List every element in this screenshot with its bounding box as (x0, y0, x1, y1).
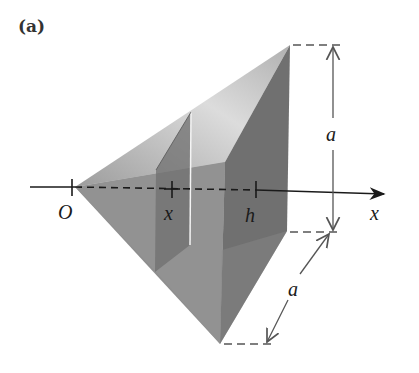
height-label: h (245, 204, 255, 226)
lower-front-face (75, 162, 225, 344)
panel-label: (a) (18, 16, 45, 36)
diagonal-a-label: a (288, 278, 298, 300)
cross-section-label: x (163, 202, 173, 224)
pyramid-diagram: (a) O x h x a (0, 0, 419, 373)
diagonal-arrow-down (267, 300, 288, 342)
vertical-dimension: a (290, 45, 342, 232)
vertical-a-label: a (326, 123, 336, 145)
diagonal-arrow-up (300, 234, 329, 274)
axis-label: x (369, 202, 379, 224)
origin-label: O (58, 201, 72, 223)
base-lower-shade (220, 231, 287, 344)
cross-section-edge (190, 112, 191, 245)
